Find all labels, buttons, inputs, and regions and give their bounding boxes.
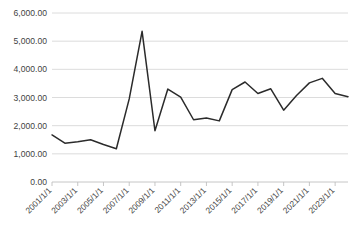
y-axis-tick-label: 2,000.00 [14,121,48,131]
chart-canvas: 6,000.005,000.004,000.003,000.002,000.00… [0,0,357,236]
chart-background [0,0,357,236]
y-axis-tick-label: 4,000.00 [14,64,48,74]
y-axis-tick-label: 5,000.00 [14,36,48,46]
y-axis-tick-label: 1,000.00 [14,149,48,159]
y-axis-tick-label: 3,000.00 [14,93,48,103]
y-axis-tick-label: 0.00 [30,177,47,187]
y-axis-tick-label: 6,000.00 [14,8,48,18]
line-chart: 6,000.005,000.004,000.003,000.002,000.00… [0,0,357,236]
